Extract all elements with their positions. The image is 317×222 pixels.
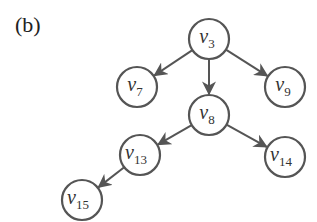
nodes-group: v3v7v9v8v13v14v15 (62, 19, 305, 220)
edge-v8-v13 (158, 125, 192, 144)
edge-v3-v7 (154, 50, 192, 75)
node-v9: v9 (265, 67, 305, 107)
node-v13: v13 (120, 135, 160, 175)
node-v14: v14 (265, 137, 305, 177)
edge-v8-v14 (227, 125, 267, 147)
edge-v13-v15 (99, 167, 125, 187)
tree-diagram: v3v7v9v8v13v14v15 (0, 0, 317, 222)
node-v15: v15 (62, 180, 102, 220)
node-v7: v7 (117, 67, 157, 107)
node-v3: v3 (189, 19, 229, 59)
node-v8: v8 (189, 95, 229, 135)
edge-v3-v9 (226, 50, 267, 76)
